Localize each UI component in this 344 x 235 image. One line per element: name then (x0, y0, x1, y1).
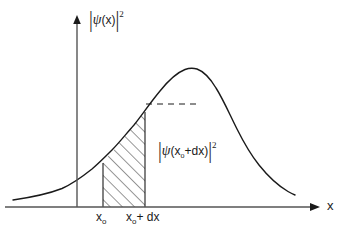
y-axis-label-bar-open: | (89, 8, 93, 31)
y-axis-arrowhead (73, 15, 81, 24)
probability-density-curve (13, 68, 295, 200)
shaded-region (100, 105, 150, 210)
probability-density-figure (0, 0, 344, 235)
tick-label-x0: xo (96, 211, 106, 226)
shaded-region-label: |ψ(xo+dx)|2 (158, 141, 217, 160)
y-axis-label-bar-close: | (116, 8, 120, 31)
y-axis-label-psi: ψ (93, 12, 102, 27)
tick-x0dx-suffix: + dx (136, 210, 159, 224)
tick-x0-subscript: o (102, 217, 106, 226)
region-label-suffix: +dx (185, 144, 205, 158)
y-axis-label: |ψ(x)|2 (89, 10, 124, 29)
region-label-bar-open: | (158, 139, 162, 162)
region-label-exponent: 2 (212, 140, 217, 150)
figure-container: |ψ(x)|2 |ψ(xo+dx)|2 x xo xo+ dx (0, 0, 344, 235)
x-axis-arrowhead (310, 203, 320, 211)
region-label-psi: ψ (162, 143, 171, 158)
x-axis-label: x (327, 199, 334, 212)
region-label-bar-close: | (208, 139, 212, 162)
y-axis-label-exponent: 2 (119, 9, 124, 19)
tick-label-x0-plus-dx: xo+ dx (126, 211, 159, 226)
